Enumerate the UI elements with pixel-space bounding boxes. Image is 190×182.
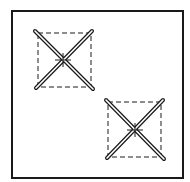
- crossed-brace-1: [35, 31, 93, 89]
- brace-elements: [35, 31, 164, 159]
- crossed-brace-2: [106, 100, 164, 159]
- diagram-canvas: [0, 0, 190, 182]
